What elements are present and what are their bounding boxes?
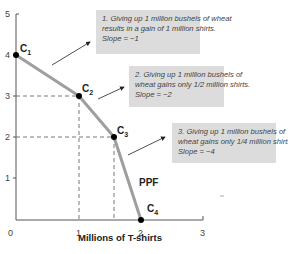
note-3-line-2: wheat gains only 1/4 million shirts. <box>178 137 270 147</box>
note-1-slope: Slope = −1 <box>102 34 194 44</box>
arrow-3 <box>128 137 165 155</box>
y-tick-2: 2 <box>5 132 10 142</box>
ppf-label: PPF <box>139 177 158 188</box>
y-tick-5: 5 <box>5 9 10 19</box>
y-tick-3: 3 <box>5 91 10 101</box>
note-3-line-1: 3. Giving up 1 million bushels of <box>178 127 270 137</box>
label-c3: C3 <box>117 125 128 138</box>
note-1-line-1: 1. Giving up 1 million bushels of wheat <box>102 14 194 24</box>
label-c4: C4 <box>147 203 158 216</box>
guide-lines <box>16 96 114 220</box>
y-tick-4: 4 <box>5 50 10 60</box>
y-tick-1: 1 <box>5 173 10 183</box>
annotation-box-1: 1. Giving up 1 million bushels of wheat … <box>96 10 200 54</box>
note-2-line-2: wheat gains only 1/2 million shirts. <box>135 80 218 90</box>
x-axis-title: Millions of T-shirts <box>40 232 200 243</box>
annotation-box-3: 3. Giving up 1 million bushels of wheat … <box>172 123 276 163</box>
x-tick-3: 3 <box>200 228 205 238</box>
annotation-box-2: 2. Giving up 1 million bushels of wheat … <box>129 66 224 107</box>
note-2-slope: Slope = −2 <box>135 90 218 100</box>
note-3-slope: Slope = −4 <box>178 147 270 157</box>
point-c4 <box>138 217 144 223</box>
ppf-curve <box>16 55 141 220</box>
arrow-1 <box>52 42 90 65</box>
point-c1 <box>13 52 19 58</box>
label-c2: C2 <box>82 83 93 96</box>
x-tick-0: 0 <box>8 228 13 238</box>
arrow-2 <box>98 87 124 99</box>
label-c1: C1 <box>20 43 31 56</box>
note-1-line-2: results in a gain of 1 million shirts. <box>102 24 194 34</box>
note-2-line-1: 2. Giving up 1 million bushels of <box>135 70 218 80</box>
